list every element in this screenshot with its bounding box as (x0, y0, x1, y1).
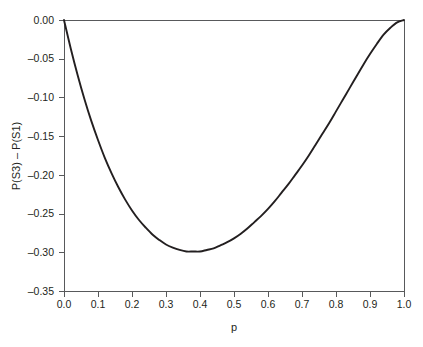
x-tick-label: 0.9 (363, 298, 378, 310)
x-tick-label: 0.1 (91, 298, 106, 310)
y-tick-label: –0.30 (28, 246, 54, 258)
x-tick-label: 0.4 (193, 298, 208, 310)
y-tick-label: –0.05 (28, 52, 54, 64)
x-tick-label: 0.5 (227, 298, 242, 310)
x-tick-label: 0.6 (261, 298, 276, 310)
chart-background (0, 0, 423, 347)
y-tick-label: –0.15 (28, 130, 54, 142)
y-tick-label: –0.25 (28, 207, 54, 219)
y-tick-label: –0.10 (28, 91, 54, 103)
y-tick-label: –0.20 (28, 169, 54, 181)
x-tick-label: 1.0 (397, 298, 412, 310)
y-tick-label: –0.35 (28, 285, 54, 297)
chart-canvas: 0.00.10.20.30.40.50.60.70.80.91.0 0.00–0… (0, 0, 423, 347)
x-tick-label: 0.0 (57, 298, 72, 310)
x-axis-title: p (231, 321, 237, 333)
x-tick-label: 0.8 (329, 298, 344, 310)
y-axis-title: P(S3) – P(S1) (10, 122, 22, 190)
x-tick-label: 0.3 (159, 298, 174, 310)
x-tick-label: 0.2 (125, 298, 140, 310)
chart-figure: 0.00.10.20.30.40.50.60.70.80.91.0 0.00–0… (0, 0, 423, 347)
x-tick-label: 0.7 (295, 298, 310, 310)
y-tick-label: 0.00 (34, 14, 55, 26)
